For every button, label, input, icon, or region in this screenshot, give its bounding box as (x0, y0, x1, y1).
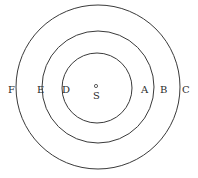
label-middle-right: B (160, 84, 167, 95)
label-inner-left: D (62, 84, 70, 95)
label-outer-right: C (182, 84, 190, 95)
center-label: S (93, 90, 100, 101)
label-outer-left: F (8, 84, 15, 95)
concentric-circles-diagram: S F E D A B C (0, 0, 198, 178)
label-middle-left: E (37, 84, 44, 95)
label-inner-right: A (140, 84, 149, 95)
inner-circle (62, 53, 132, 123)
center-point-icon (94, 84, 97, 87)
middle-circle (42, 31, 154, 143)
